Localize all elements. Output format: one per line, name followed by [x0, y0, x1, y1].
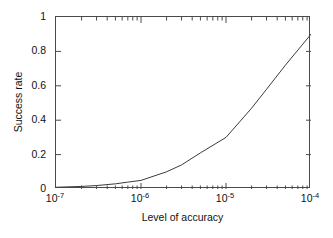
x-axis-tick-label: 10-4 — [301, 192, 319, 204]
x-tick-exponent: -4 — [313, 191, 320, 200]
x-tick-exponent: -6 — [143, 191, 150, 200]
x-tick-mantissa: 10 — [131, 192, 143, 204]
x-axis-tick-label: 10-6 — [131, 192, 149, 204]
chart-figure: 00.20.40.60.81 Success rate 10-710-610-5… — [0, 0, 333, 238]
x-tick-mantissa: 10 — [301, 192, 313, 204]
x-axis-tick-labels: 10-710-610-510-4 — [0, 0, 333, 238]
x-axis-tick-label: 10-5 — [216, 192, 234, 204]
x-tick-mantissa: 10 — [46, 192, 58, 204]
x-axis-title: Level of accuracy — [55, 211, 310, 223]
x-tick-exponent: -7 — [58, 191, 65, 200]
x-tick-mantissa: 10 — [216, 192, 228, 204]
x-axis-tick-label: 10-7 — [46, 192, 64, 204]
x-tick-exponent: -5 — [228, 191, 235, 200]
